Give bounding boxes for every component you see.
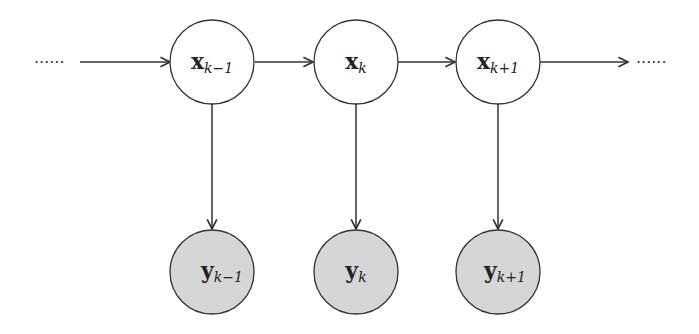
observed-node-y-k: yk xyxy=(314,230,398,314)
hidden-node-x-k-minus-1: xk−1 xyxy=(170,20,254,104)
leading-ellipsis: ······ xyxy=(34,53,65,72)
hidden-node-x-k-plus-1: xk+1 xyxy=(456,20,540,104)
trailing-ellipsis: ······ xyxy=(636,53,667,72)
hidden-node-x-k: xk xyxy=(314,20,398,104)
hmm-diagram: ······ ······ xk−1 xk xk+1 yk−1 yk yk+1 xyxy=(0,0,699,334)
observed-node-y-k-minus-1: yk−1 xyxy=(170,230,254,314)
observed-node-y-k-plus-1: yk+1 xyxy=(456,230,540,314)
